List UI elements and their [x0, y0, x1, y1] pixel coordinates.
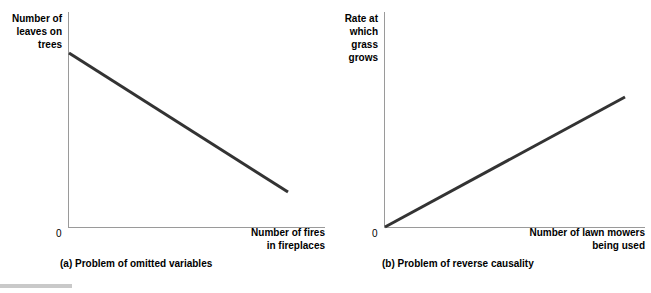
- x-axis-label-b: Number of lawn mowers being used: [505, 226, 645, 252]
- plot-area-b: [384, 12, 645, 228]
- figure-container: Number of leaves on trees 0 Number of fi…: [0, 0, 651, 293]
- data-line-a: [68, 12, 325, 228]
- caption-a: (a) Problem of omitted variables: [60, 257, 212, 270]
- x-axis-label-a: Number of fires in fireplaces: [195, 226, 325, 252]
- y-axis-label-b: Rate at which grass grows: [330, 12, 378, 64]
- plot-area-a: [68, 12, 325, 228]
- scan-artifact-bar: [0, 284, 72, 288]
- origin-label-a: 0: [56, 228, 62, 240]
- caption-b: (b) Problem of reverse causality: [382, 257, 534, 270]
- origin-label-b: 0: [372, 228, 378, 240]
- y-axis-label-a: Number of leaves on trees: [0, 12, 62, 51]
- data-line-b: [384, 12, 645, 228]
